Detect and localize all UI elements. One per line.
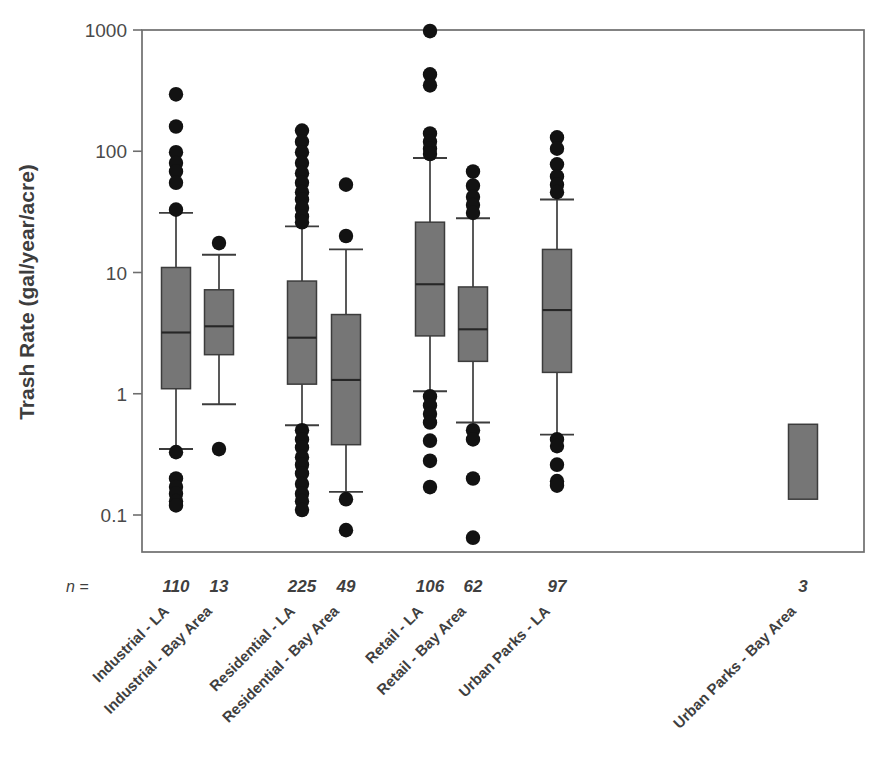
n-value-label: 3 — [798, 577, 808, 596]
box-iqr — [205, 290, 234, 355]
outlier-point — [466, 206, 480, 221]
n-value-label: 106 — [416, 577, 445, 596]
outlier-point — [550, 141, 564, 156]
outlier-point — [339, 492, 353, 507]
n-value-label: 62 — [464, 577, 483, 596]
n-value-label: 49 — [336, 577, 356, 596]
outlier-point — [423, 480, 437, 495]
y-axis-title-text: Trash Rate (gal/year/acre) — [15, 164, 38, 420]
n-equals-prefix: n = — [66, 578, 89, 595]
outlier-point — [423, 415, 437, 430]
n-value-label: 225 — [287, 577, 317, 596]
outlier-point — [169, 87, 183, 102]
trash-rate-box-plot: Trash Rate (gal/year/acre) 10001001010.1… — [0, 0, 890, 784]
outlier-point — [339, 229, 353, 244]
box-plot-figure: Trash Rate (gal/year/acre) 10001001010.1… — [0, 0, 890, 784]
outlier-point — [169, 445, 183, 460]
y-tick-label: 100 — [95, 141, 127, 162]
outlier-point — [466, 471, 480, 486]
outlier-point — [212, 442, 226, 457]
outlier-point — [466, 530, 480, 545]
outlier-point — [169, 498, 183, 513]
outlier-point — [423, 78, 437, 93]
y-tick-label: 1 — [116, 384, 127, 405]
n-value-label: 97 — [548, 577, 568, 596]
y-tick-label: 10 — [106, 263, 127, 284]
n-value-label: 110 — [162, 577, 190, 596]
outlier-point — [339, 523, 353, 538]
box-iqr — [459, 287, 488, 361]
outlier-point — [550, 439, 564, 454]
outlier-point — [466, 432, 480, 447]
outlier-point — [550, 185, 564, 200]
outlier-point — [295, 503, 309, 518]
box-iqr — [162, 267, 191, 388]
outlier-point — [212, 236, 226, 251]
outlier-point — [169, 119, 183, 134]
outlier-point — [466, 164, 480, 179]
y-tick-label: 1000 — [85, 20, 127, 41]
outlier-point — [169, 202, 183, 217]
outlier-point — [295, 215, 309, 230]
outlier-point — [550, 478, 564, 493]
outlier-point — [423, 433, 437, 448]
outlier-point — [339, 177, 353, 192]
outlier-point — [423, 453, 437, 468]
y-axis-title: Trash Rate (gal/year/acre) — [15, 164, 38, 420]
box-plot-group — [789, 424, 818, 499]
box-iqr — [789, 424, 818, 499]
n-value-label: 13 — [210, 577, 229, 596]
box-iqr — [288, 281, 317, 384]
outlier-point — [550, 457, 564, 472]
y-tick-label: 0.1 — [101, 505, 127, 526]
outlier-point — [423, 24, 437, 39]
outlier-point — [169, 175, 183, 190]
outlier-point — [423, 147, 437, 162]
box-iqr — [416, 222, 445, 336]
